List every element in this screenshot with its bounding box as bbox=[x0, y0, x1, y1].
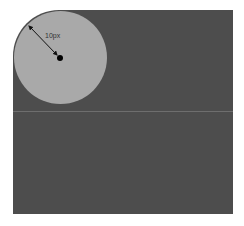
center-dot bbox=[57, 55, 63, 61]
radius-arrow-icon bbox=[0, 0, 244, 226]
radius-label: 10px bbox=[45, 32, 60, 39]
